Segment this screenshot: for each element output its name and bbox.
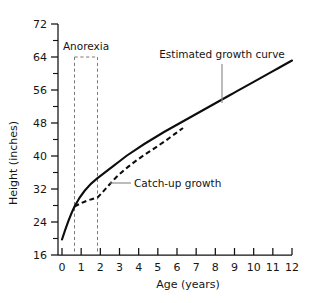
x-tick-label: 5 <box>154 261 161 274</box>
y-tick-label: 64 <box>33 51 47 64</box>
y-tick-label: 48 <box>33 117 47 130</box>
x-tick-label: 9 <box>231 261 238 274</box>
y-tick-label: 72 <box>33 18 47 31</box>
x-tick-label: 4 <box>135 261 142 274</box>
x-tick-label: 10 <box>247 261 261 274</box>
y-tick-label: 16 <box>33 249 47 262</box>
x-tick-label: 2 <box>97 261 104 274</box>
x-axis-title: Age (years) <box>156 278 220 291</box>
y-axis-title: Height (inches) <box>7 121 20 205</box>
x-tick-label: 8 <box>212 261 219 274</box>
x-tick-label: 6 <box>174 261 181 274</box>
x-tick-label: 11 <box>266 261 280 274</box>
estimated-growth-curve-label: Estimated growth curve <box>159 48 285 60</box>
y-tick-label: 32 <box>33 183 47 196</box>
x-tick-label: 12 <box>285 261 299 274</box>
x-tick-label: 7 <box>193 261 200 274</box>
anorexia-label: Anorexia <box>63 40 109 52</box>
chart-svg: 72 64 56 48 40 32 24 16 Height (inches) <box>0 0 310 303</box>
y-tick-label: 40 <box>33 150 47 163</box>
growth-chart-figure: 72 64 56 48 40 32 24 16 Height (inches) <box>0 0 310 303</box>
y-tick-label: 24 <box>33 216 47 229</box>
x-tick-label: 1 <box>78 261 85 274</box>
x-tick-label: 3 <box>116 261 123 274</box>
catch-up-growth-label: Catch-up growth <box>134 177 221 189</box>
y-tick-label: 56 <box>33 84 47 97</box>
x-tick-label: 0 <box>59 261 66 274</box>
